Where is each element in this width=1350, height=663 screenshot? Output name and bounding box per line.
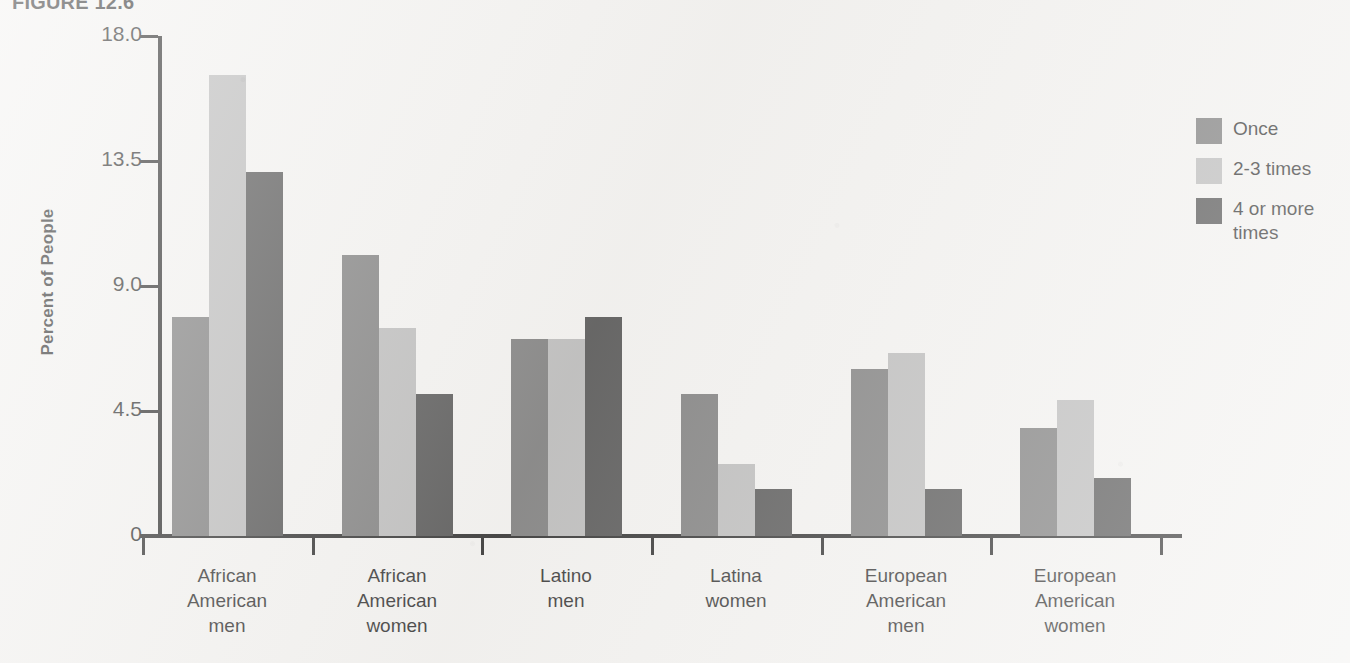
bar [925, 489, 962, 536]
x-category-label-5: European American women [990, 563, 1160, 638]
x-category-label-4: European American men [821, 563, 991, 638]
x-tick-6 [1160, 538, 1163, 555]
bar [172, 317, 209, 536]
legend-label: Once [1233, 117, 1278, 141]
legend-label: 4 or more times [1233, 197, 1314, 245]
bar [1057, 400, 1094, 536]
bar [511, 339, 548, 536]
bar [718, 464, 755, 536]
legend-label: 2-3 times [1233, 157, 1311, 181]
legend-item[interactable]: 4 or more times [1196, 197, 1346, 245]
bar [755, 489, 792, 536]
bar [851, 369, 888, 536]
legend-swatch-icon [1196, 198, 1222, 224]
bar [548, 339, 585, 536]
bar [681, 394, 718, 536]
x-tick-1 [312, 538, 315, 555]
bar [209, 75, 246, 536]
x-tick-5 [990, 538, 993, 555]
x-category-label-3: Latina women [651, 563, 821, 613]
legend-item[interactable]: 2-3 times [1196, 157, 1346, 184]
bar [585, 317, 622, 536]
x-category-label-0: African American men [142, 563, 312, 638]
bar [246, 172, 283, 536]
x-tick-2 [481, 538, 484, 555]
x-category-label-2: Latino men [481, 563, 651, 613]
bar [1094, 478, 1131, 536]
bar [342, 255, 379, 536]
bar-chart: FIGURE 12.6 Percent of People 04.59.013.… [0, 0, 1350, 663]
plot-area [0, 0, 1350, 536]
legend-swatch-icon [1196, 118, 1222, 144]
bar [379, 328, 416, 536]
x-tick-0 [142, 538, 145, 555]
bar [888, 353, 925, 536]
legend-item[interactable]: Once [1196, 117, 1346, 144]
bar [416, 394, 453, 536]
x-tick-3 [651, 538, 654, 555]
legend-swatch-icon [1196, 158, 1222, 184]
bar [1020, 428, 1057, 536]
chart-legend: Once2-3 times4 or more times [1196, 117, 1346, 258]
x-tick-4 [821, 538, 824, 555]
x-category-label-1: African American women [312, 563, 482, 638]
